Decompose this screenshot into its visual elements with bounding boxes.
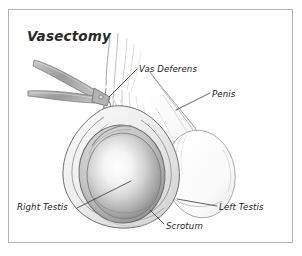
label-left-testis: Left Testis <box>219 202 264 212</box>
label-scrotum: Scrotum <box>166 221 203 231</box>
label-right-testis: Right Testis <box>17 202 68 212</box>
label-vas-deferens: Vas Deferens <box>139 64 197 74</box>
vasectomy-figure: Vasectomy Vas Deferens Penis Right Testi… <box>0 0 302 256</box>
leader-penis <box>176 93 210 110</box>
leader-vas-deferens <box>109 69 137 97</box>
page-title: Vasectomy <box>27 28 111 44</box>
label-penis: Penis <box>212 89 235 99</box>
